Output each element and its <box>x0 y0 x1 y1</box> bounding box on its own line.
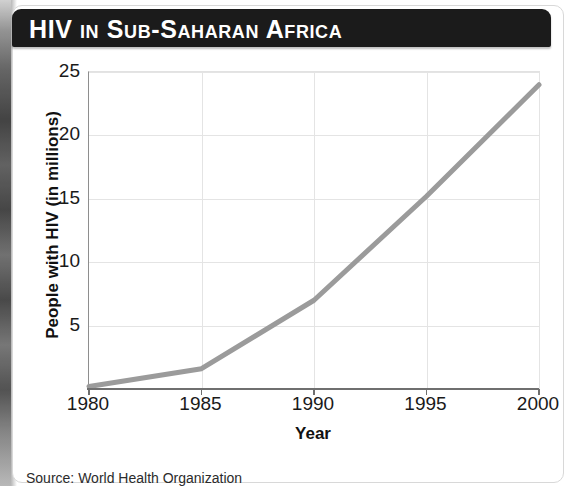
y-tick-label: 15 <box>36 188 80 207</box>
x-tick-mark <box>313 389 315 395</box>
x-tick-mark <box>88 389 90 395</box>
x-tick-mark <box>426 389 428 395</box>
y-tick-label: 20 <box>36 124 80 143</box>
x-axis-title: Year <box>88 424 538 444</box>
y-tick-label: 10 <box>36 251 80 270</box>
page-gutter-shadow <box>0 0 11 486</box>
x-tick-mark <box>201 389 203 395</box>
x-tick-label: 1985 <box>161 394 241 413</box>
x-tick-label: 1995 <box>386 394 466 413</box>
y-axis-title: People with HIV (in millions) <box>43 60 63 390</box>
y-tick-label: 25 <box>36 61 80 80</box>
title-banner: HIV in Sub-Saharan Africa <box>12 9 551 47</box>
page-title: HIV in Sub-Saharan Africa <box>29 14 342 44</box>
x-tick-label: 2000 <box>498 394 569 413</box>
data-line-chart <box>89 72 539 389</box>
source-note: Source: World Health Organization <box>26 470 242 486</box>
y-tick-label: 5 <box>36 315 80 334</box>
series-line-people-with-hiv <box>89 85 539 387</box>
x-tick-label: 1990 <box>273 394 353 413</box>
x-tick-mark <box>538 389 540 395</box>
plot-area <box>88 71 540 389</box>
x-tick-label: 1980 <box>48 394 128 413</box>
gridline-vertical <box>539 72 540 389</box>
